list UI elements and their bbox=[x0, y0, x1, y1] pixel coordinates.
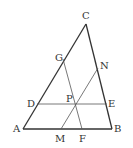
side-ca bbox=[23, 24, 86, 129]
label-e: E bbox=[108, 98, 115, 109]
label-f: F bbox=[79, 133, 86, 144]
label-a: A bbox=[12, 123, 21, 134]
label-g: G bbox=[55, 52, 63, 63]
point-labels: C G N D P E A M F B bbox=[12, 10, 121, 144]
label-n: N bbox=[100, 60, 109, 71]
label-m: M bbox=[55, 133, 65, 144]
label-c: C bbox=[82, 10, 90, 21]
geometry-diagram: C G N D P E A M F B bbox=[0, 0, 133, 148]
side-bc bbox=[86, 24, 112, 129]
label-d: D bbox=[27, 98, 35, 109]
label-b: B bbox=[114, 123, 121, 134]
label-p: P bbox=[66, 93, 73, 104]
